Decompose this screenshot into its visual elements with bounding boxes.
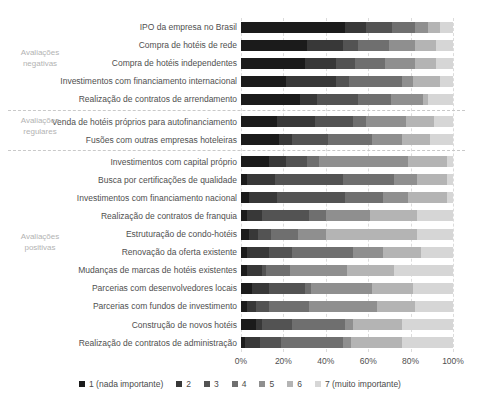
stacked-bar: [241, 22, 453, 33]
bar-segment-rating-5: [385, 58, 415, 69]
category-label: Busca por certificações de qualidade: [0, 175, 241, 185]
bar-segment-rating-1: [241, 192, 249, 203]
bar-segment-rating-5: [345, 319, 353, 330]
group-label-line: Avaliações: [14, 115, 66, 126]
legend: 1 (nada importante)234567 (muito importa…: [0, 379, 480, 389]
bar-segment-rating-3: [275, 174, 343, 185]
bar-segment-rating-1: [241, 58, 305, 69]
bar-segment-rating-3: [258, 229, 271, 240]
category-label: Parcerias com fundos de investimento: [0, 301, 241, 311]
bar-segment-rating-7: [430, 134, 453, 145]
bar-segment-rating-3: [262, 319, 292, 330]
stacked-bar: [241, 283, 453, 294]
bar-segment-rating-1: [241, 156, 269, 167]
bar-segment-rating-6: [408, 156, 446, 167]
bar-segment-rating-6: [347, 265, 394, 276]
bar-segment-rating-6: [402, 134, 430, 145]
group-divider-line: [8, 110, 465, 111]
bar-row: Realização de contratos de franquia: [0, 207, 465, 225]
stacked-bar: [241, 76, 453, 87]
bar-segment-rating-3: [315, 116, 353, 127]
bar-segment-rating-2: [345, 22, 366, 33]
bar-segment-rating-7: [440, 76, 453, 87]
bar-segment-rating-5: [415, 22, 428, 33]
bar-segment-rating-7: [402, 319, 453, 330]
bar-segment-rating-7: [447, 174, 453, 185]
bar-segment-rating-7: [413, 283, 453, 294]
bar-segment-rating-3: [286, 156, 307, 167]
stacked-bar: [241, 116, 453, 127]
legend-swatch-icon: [79, 381, 85, 387]
bar-segment-rating-5: [343, 337, 351, 348]
bar-segment-rating-2: [279, 134, 292, 145]
legend-swatch-icon: [204, 381, 210, 387]
bar-segment-rating-6: [415, 40, 436, 51]
group-label-line: Avaliações: [14, 231, 66, 242]
bar-segment-rating-1: [241, 76, 286, 87]
bar-segment-rating-5: [326, 210, 371, 221]
bar-segment-rating-2: [247, 265, 262, 276]
stacked-bar: [241, 58, 453, 69]
bar-segment-rating-6: [370, 210, 417, 221]
bar-segment-rating-5: [372, 134, 402, 145]
bar-segment-rating-3: [256, 301, 269, 312]
bar-segment-rating-3: [343, 40, 358, 51]
category-label: Realização de contratos de administração: [0, 338, 241, 348]
bar-segment-rating-4: [292, 319, 345, 330]
bar-segment-rating-2: [247, 247, 268, 258]
bar-segment-rating-6: [353, 319, 402, 330]
legend-swatch-icon: [287, 381, 293, 387]
bar-segment-rating-7: [428, 94, 453, 105]
bar-segment-rating-4: [307, 156, 320, 167]
bar-segment-rating-4: [292, 247, 353, 258]
bar-row: Investimentos com financiamento internac…: [0, 72, 465, 90]
bar-segment-rating-2: [247, 210, 262, 221]
bar-segment-rating-4: [353, 116, 366, 127]
bar-segment-rating-3: [262, 210, 309, 221]
bar-segment-rating-2: [269, 156, 286, 167]
bar-segment-rating-3: [292, 134, 328, 145]
bar-segment-rating-3: [336, 76, 349, 87]
bar-row: Compra de hotéis de rede: [0, 36, 465, 54]
bar-segment-rating-6: [383, 247, 421, 258]
bar-segment-rating-4: [266, 265, 289, 276]
group-divider-line: [8, 150, 465, 151]
category-label: Investimentos com financiamento internac…: [0, 76, 241, 86]
group-label-line: Avaliações: [14, 47, 66, 58]
group-label-regulares: Avaliaçõesregulares: [14, 115, 66, 137]
group-label-negativas: Avaliaçõesnegativas: [14, 47, 66, 69]
group-label-positivas: Avaliaçõespositivas: [14, 231, 66, 253]
stacked-bar: [241, 156, 453, 167]
stacked-bar: [241, 210, 453, 221]
bar-segment-rating-1: [241, 22, 345, 33]
legend-item: 3: [204, 379, 219, 389]
legend-item: 4: [232, 379, 247, 389]
bar-segment-rating-5: [366, 116, 406, 127]
group-label-line: positivas: [14, 242, 66, 253]
bar-row: Parcerias com fundos de investimento: [0, 297, 465, 315]
bar-segment-rating-3: [260, 337, 281, 348]
bar-segment-rating-6: [377, 301, 415, 312]
x-tick-label: 0%: [219, 356, 263, 366]
bar-row: Investimentos com capital próprio: [0, 153, 465, 171]
bar-segment-rating-7: [436, 58, 453, 69]
bar-segment-rating-7: [417, 229, 453, 240]
bar-segment-rating-7: [436, 40, 453, 51]
bar-row: Venda de hotéis próprios para autofinanc…: [0, 112, 465, 130]
category-label: Investimentos com capital próprio: [0, 157, 241, 167]
bar-segment-rating-5: [394, 174, 417, 185]
legend-label: 3: [214, 379, 219, 389]
bar-segment-rating-3: [366, 22, 391, 33]
bar-segment-rating-6: [428, 22, 441, 33]
bar-segment-rating-2: [286, 76, 337, 87]
bar-segment-rating-2: [252, 283, 269, 294]
bar-segment-rating-2: [305, 58, 337, 69]
bar-row: Renovação da oferta existente: [0, 243, 465, 261]
stacked-bar: [241, 174, 453, 185]
bar-segment-rating-7: [447, 156, 453, 167]
category-label: Realização de contratos de franquia: [0, 211, 241, 221]
bar-segment-rating-2: [245, 337, 260, 348]
x-tick-label: 40%: [304, 356, 348, 366]
stacked-bar: [241, 94, 453, 105]
bar-row: Fusões com outras empresas hoteleiras: [0, 131, 465, 149]
